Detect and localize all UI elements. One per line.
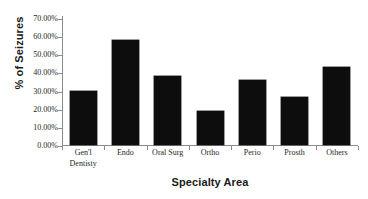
y-axis-tick-label: 40.00% xyxy=(20,69,58,77)
x-axis-tick-label-line: Prosth xyxy=(273,148,315,159)
y-axis-tick-label: 30.00% xyxy=(20,88,58,96)
y-axis-tick-label: 0.00% xyxy=(20,142,58,150)
bar xyxy=(239,80,266,145)
plot-area xyxy=(62,19,358,146)
x-axis-tick-label: Ortho xyxy=(189,148,231,159)
bar-chart: % of Seizures 70.00%60.00%50.00%40.00%30… xyxy=(0,0,368,199)
x-axis-line xyxy=(62,145,358,146)
x-axis-tick-label-line: Gen'l xyxy=(62,148,104,159)
x-axis-tick-label: Oral Surg xyxy=(147,148,189,159)
x-axis-tick-label-line: Oral Surg xyxy=(147,148,189,159)
x-axis-tick-label: Others xyxy=(316,148,358,159)
y-axis-tick-labels: 70.00%60.00%50.00%40.00%30.00%20.00%10.0… xyxy=(20,0,58,199)
x-axis-tick-label-line: Perio xyxy=(231,148,273,159)
x-axis-tick-label-line: Others xyxy=(316,148,358,159)
x-axis-tick-label-line: Ortho xyxy=(189,148,231,159)
x-axis-tick-label-line: Dentisty xyxy=(62,159,104,170)
bar xyxy=(112,40,139,145)
x-axis-tick-label: Gen'lDentisty xyxy=(62,148,104,169)
y-axis-tick-label: 50.00% xyxy=(20,51,58,59)
x-axis-tick-label: Endo xyxy=(104,148,146,159)
x-axis-tick-mark xyxy=(358,146,359,150)
bar xyxy=(154,76,181,145)
x-axis-tick-labels: Gen'lDentistyEndoOral SurgOrthoPerioPros… xyxy=(62,148,358,176)
x-axis-tick-label: Prosth xyxy=(273,148,315,159)
y-axis-tick-label: 20.00% xyxy=(20,106,58,114)
bar xyxy=(323,67,350,145)
bar xyxy=(281,97,308,145)
x-axis-tick-label: Perio xyxy=(231,148,273,159)
bar xyxy=(70,91,97,145)
y-axis-tick-label: 60.00% xyxy=(20,33,58,41)
x-axis-tick-label-line: Endo xyxy=(104,148,146,159)
y-axis-tick-label: 10.00% xyxy=(20,124,58,132)
bar xyxy=(197,111,224,145)
y-axis-tick-label: 70.00% xyxy=(20,15,58,23)
bars-layer xyxy=(62,18,358,145)
x-axis-title: Specialty Area xyxy=(62,176,358,188)
